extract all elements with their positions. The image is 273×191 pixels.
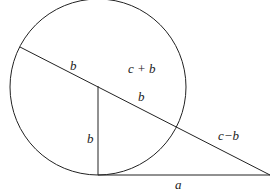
label-a: a	[175, 178, 182, 191]
geometry-diagram: b c + b b b c−b a	[0, 0, 273, 191]
label-upper-b: b	[70, 59, 77, 72]
label-lower-b: b	[138, 90, 145, 103]
diagram-lines	[0, 0, 273, 191]
label-vertical-b: b	[87, 132, 94, 145]
label-c-minus-b: c−b	[218, 129, 239, 142]
label-c-plus-b: c + b	[128, 62, 156, 75]
